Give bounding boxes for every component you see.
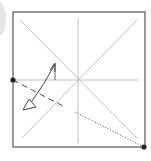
fold-arrow-curve bbox=[30, 64, 55, 104]
arrow-head-bottom-icon bbox=[23, 99, 36, 110]
left-edge-point bbox=[10, 77, 15, 82]
bottom-right-corner-point bbox=[141, 144, 146, 149]
arrow-head-top-icon bbox=[50, 63, 55, 72]
dotted-guide-line bbox=[75, 112, 144, 147]
valley-fold-line bbox=[13, 80, 65, 107]
origami-fold-diagram bbox=[0, 0, 151, 161]
